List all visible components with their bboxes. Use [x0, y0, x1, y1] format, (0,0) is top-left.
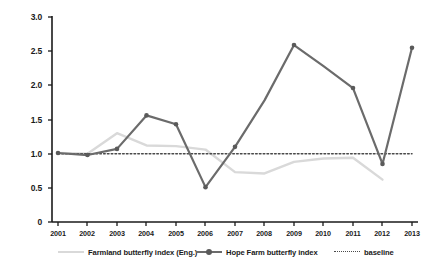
legend-swatch-hope-farm [196, 247, 222, 257]
x-tick-label-2003: 2003 [103, 229, 131, 238]
data-point-hope-farm-2003 [115, 147, 120, 152]
y-tick-label-1-5: 1.5 [18, 115, 42, 125]
legend-item-farmland[interactable]: Farmland butterfly index (Eng.) [58, 245, 197, 259]
data-point-hope-farm-2006 [203, 185, 208, 190]
x-tick-label-2006: 2006 [191, 229, 219, 238]
x-tick-label-2005: 2005 [162, 229, 190, 238]
data-point-hope-farm-2002 [85, 153, 90, 158]
series-markers-hope-farm [56, 43, 415, 190]
legend-label-baseline: baseline [364, 248, 394, 257]
y-tick-label-2-0: 2.0 [18, 80, 42, 90]
x-tick-label-2004: 2004 [132, 229, 160, 238]
y-tick-label-0: 0 [18, 217, 42, 227]
data-point-hope-farm-2001 [56, 151, 61, 156]
x-tick-label-2001: 2001 [44, 229, 72, 238]
legend-label-hope-farm: Hope Farm butterfly index [226, 248, 318, 257]
x-tick-label-2007: 2007 [221, 229, 249, 238]
data-point-hope-farm-2005 [174, 122, 179, 127]
legend-swatch-farmland [58, 247, 84, 257]
legend-swatch-baseline [334, 247, 360, 257]
x-tick-label-2002: 2002 [73, 229, 101, 238]
x-tick-label-2012: 2012 [368, 229, 396, 238]
x-tick-label-2010: 2010 [309, 229, 337, 238]
chart-legend: Farmland butterfly index (Eng.) Hope Far… [0, 245, 425, 261]
series-line-hope-farm [58, 45, 412, 187]
x-tick-label-2011: 2011 [339, 229, 367, 238]
data-point-hope-farm-2011 [351, 86, 356, 91]
x-tick-label-2009: 2009 [280, 229, 308, 238]
data-point-hope-farm-2007 [233, 145, 238, 150]
y-tick-label-2-5: 2.5 [18, 46, 42, 56]
data-point-hope-farm-2012 [380, 162, 385, 167]
data-point-hope-farm-2009 [292, 43, 297, 48]
butterfly-index-line-chart: 3.0 2.5 2.0 1.5 1.0 0.5 0 2001 2002 2003… [0, 0, 425, 270]
y-tick-label-1-0: 1.0 [18, 149, 42, 159]
data-point-hope-farm-2013 [410, 45, 415, 50]
series-line-farmland [58, 133, 383, 179]
legend-label-farmland: Farmland butterfly index (Eng.) [88, 248, 197, 257]
x-tick-label-2008: 2008 [250, 229, 278, 238]
y-tick-label-3-0: 3.0 [18, 12, 42, 22]
y-tick-label-0-5: 0.5 [18, 183, 42, 193]
legend-item-hope-farm[interactable]: Hope Farm butterfly index [196, 245, 318, 259]
data-point-hope-farm-2004 [144, 113, 149, 118]
x-tick-label-2013: 2013 [398, 229, 425, 238]
legend-item-baseline[interactable]: baseline [334, 245, 394, 259]
